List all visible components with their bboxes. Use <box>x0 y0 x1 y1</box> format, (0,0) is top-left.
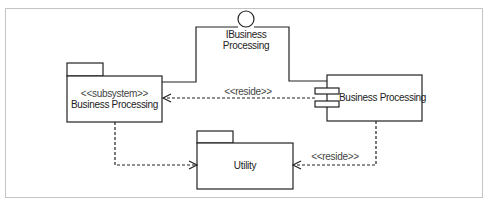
component-port-bottom <box>315 101 339 107</box>
interface-name-line2: Processing <box>206 40 286 51</box>
lollipop-interface-icon <box>238 11 254 27</box>
reside-label-bottom: <<reside>> <box>305 151 365 162</box>
reside-label-top: <<reside>> <box>218 86 278 97</box>
component-port-top <box>315 88 339 94</box>
interface-name-line1: IBusiness <box>206 29 286 40</box>
subsystem-label: <<subsystem>> Business Processing <box>67 88 162 110</box>
utility-name: Utility <box>197 160 293 171</box>
subsystem-stereotype: <<subsystem>> <box>67 88 162 99</box>
package-tab <box>197 131 233 143</box>
interface-label: IBusiness Processing <box>206 29 286 51</box>
subsystem-name: Business Processing <box>67 99 162 110</box>
subsystem-utility-dependency-line <box>115 122 195 165</box>
component-name: Business Processing <box>339 92 422 103</box>
package-tab <box>67 63 103 76</box>
